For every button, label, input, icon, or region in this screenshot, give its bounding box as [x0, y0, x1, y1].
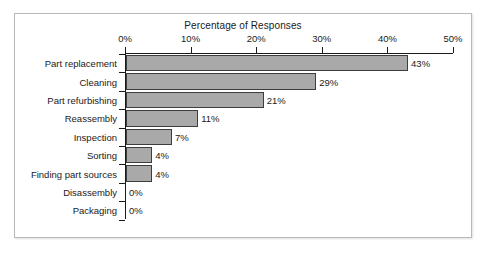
category-label: Inspection — [74, 131, 117, 142]
x-axis-tick — [387, 47, 388, 53]
bar-value-label: 43% — [411, 58, 430, 69]
bar — [126, 92, 264, 108]
x-axis-tick — [125, 47, 126, 53]
bar-value-label: 11% — [201, 113, 219, 124]
category-label: Part refurbishing — [47, 94, 117, 105]
category-label: Sorting — [87, 150, 117, 161]
bar-row: Part refurbishing21% — [15, 91, 471, 109]
bar — [126, 73, 316, 89]
x-axis-tick-label: 30% — [312, 33, 331, 44]
y-axis-tick — [119, 220, 125, 221]
bar-row: Sorting4% — [15, 146, 471, 164]
bar-value-label: 0% — [129, 186, 143, 197]
x-axis-tick-label: 0% — [118, 33, 132, 44]
bar — [126, 129, 172, 145]
x-axis-tick-label: 40% — [378, 33, 397, 44]
bar-row: Disassembly0% — [15, 183, 471, 201]
category-label: Cleaning — [80, 76, 118, 87]
bar-row: Finding part sources4% — [15, 164, 471, 182]
bar-row: Cleaning29% — [15, 72, 471, 90]
bar-value-label: 4% — [155, 150, 169, 161]
bar-value-label: 4% — [155, 168, 169, 179]
category-label: Reassembly — [65, 113, 117, 124]
bar-value-label: 7% — [175, 131, 189, 142]
bar-row: Inspection7% — [15, 128, 471, 146]
bar-row: Reassembly11% — [15, 109, 471, 127]
x-axis-tick — [191, 47, 192, 53]
x-axis-tick-label: 50% — [443, 33, 462, 44]
bar — [126, 55, 408, 71]
x-axis-tick — [322, 47, 323, 53]
x-axis-tick — [453, 47, 454, 53]
bar-value-label: 0% — [129, 205, 143, 216]
x-axis-tick-label: 10% — [181, 33, 200, 44]
bar — [126, 165, 152, 181]
bar — [126, 147, 152, 163]
bar — [126, 110, 198, 126]
bar-value-label: 21% — [267, 94, 286, 105]
category-label: Packaging — [73, 205, 117, 216]
bar-row: Packaging0% — [15, 201, 471, 219]
category-label: Disassembly — [63, 186, 117, 197]
bar-value-label: 29% — [319, 76, 338, 87]
x-axis-tick — [256, 47, 257, 53]
category-label: Part replacement — [45, 58, 117, 69]
bar-row: Part replacement43% — [15, 54, 471, 72]
x-axis-tick-label: 20% — [247, 33, 266, 44]
chart-frame: Percentage of Responses 0%10%20%30%40%50… — [14, 13, 472, 238]
category-label: Finding part sources — [31, 168, 117, 179]
bar-chart-plot-area: 0%10%20%30%40%50% Part replacement43%Cle… — [15, 14, 471, 237]
